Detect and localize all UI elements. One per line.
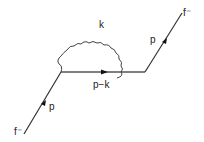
internal-momentum-label: p−k (93, 80, 109, 90)
internal-arrow-icon (101, 70, 108, 75)
outgoing-momentum-label: p (150, 35, 156, 45)
incoming-momentum-label: p (49, 102, 55, 112)
photon-momentum-label: k (99, 20, 104, 30)
incoming-particle-label: f⁻ (14, 127, 22, 137)
outgoing-particle-label: f⁻ (183, 8, 191, 18)
